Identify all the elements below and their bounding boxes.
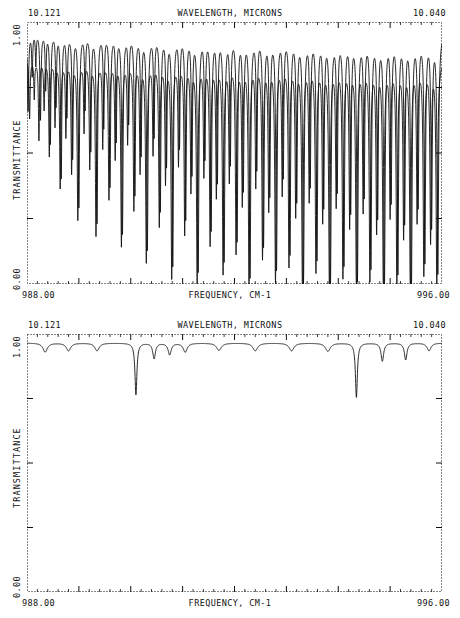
- bottom-footer-row-bottom: 988.00 FREQUENCY, CM-1 996.00: [0, 598, 460, 612]
- y-axis-title-top: TRANSMITTANCE: [12, 119, 22, 200]
- wavelength-right-value: 10.040: [413, 8, 446, 18]
- y-min-label-top: 0.00: [12, 268, 22, 290]
- frequency-right-value: 996.00: [417, 290, 450, 300]
- wavelength-axis-title-2: WAVELENGTH, MICRONS: [178, 320, 283, 330]
- frequency-left-value-2: 988.00: [22, 598, 55, 608]
- wavelength-left-value: 10.121: [28, 8, 61, 18]
- top-header-row: 10.121 WAVELENGTH, MICRONS 10.040: [0, 8, 460, 22]
- plot-svg-top: [27, 22, 442, 284]
- plot-area-bottom: [27, 334, 442, 592]
- chart-panel-bottom: 10.121 WAVELENGTH, MICRONS 10.040 1.00 T…: [0, 312, 460, 618]
- top-header-row-bottom: 10.121 WAVELENGTH, MICRONS 10.040: [0, 320, 460, 334]
- frequency-axis-title: FREQUENCY, CM-1: [189, 290, 272, 300]
- spectroscopy-page: 10.121 WAVELENGTH, MICRONS 10.040 1.00 T…: [0, 0, 460, 618]
- wavelength-right-value-2: 10.040: [413, 320, 446, 330]
- wavelength-axis-title: WAVELENGTH, MICRONS: [178, 8, 283, 18]
- bottom-footer-row-top: 988.00 FREQUENCY, CM-1 996.00: [0, 290, 460, 304]
- frequency-right-value-2: 996.00: [417, 598, 450, 608]
- y-max-label-bottom: 1.00: [12, 336, 22, 358]
- wavelength-left-value-2: 10.121: [28, 320, 61, 330]
- frequency-axis-title-2: FREQUENCY, CM-1: [189, 598, 272, 608]
- plot-area-top: [27, 22, 442, 284]
- y-max-label-top: 1.00: [12, 24, 22, 46]
- chart-panel-top: 10.121 WAVELENGTH, MICRONS 10.040 1.00 T…: [0, 0, 460, 310]
- y-axis-title-bottom: TRANSMITTANCE: [12, 427, 22, 508]
- frequency-left-value: 988.00: [22, 290, 55, 300]
- y-min-label-bottom: 0.00: [12, 576, 22, 598]
- plot-svg-bottom: [27, 334, 442, 592]
